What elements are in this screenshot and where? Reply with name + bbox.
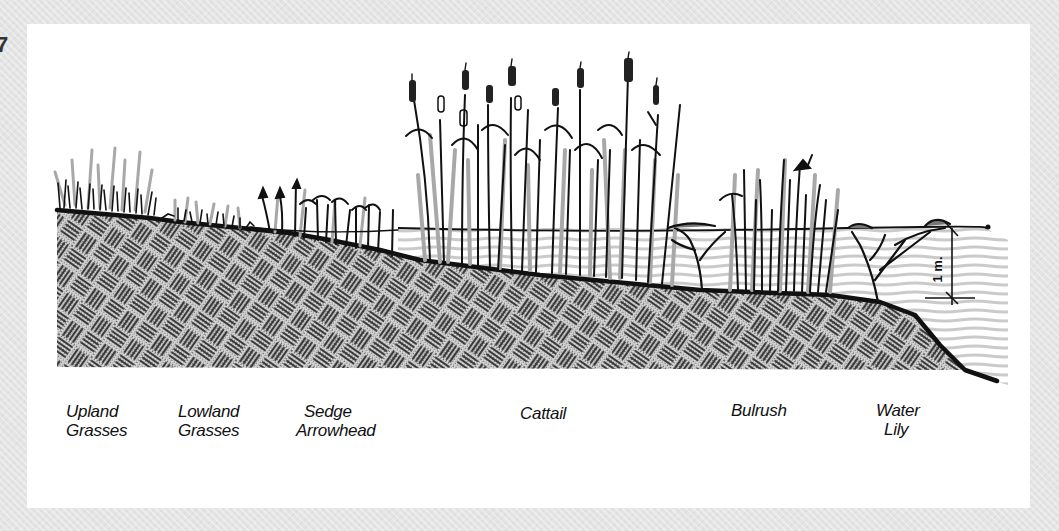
depth-marker-label: 1 m.	[930, 256, 945, 282]
wetland-cross-section-illustration	[0, 0, 1059, 531]
zone-label-bulrush: Bulrush	[731, 401, 787, 420]
zone-label-cattail: Cattail	[520, 404, 566, 423]
zone-label-lowland-grasses: Lowland Grasses	[178, 402, 239, 440]
zone-label-water-lily: Water Lily	[876, 401, 920, 439]
cattail-heads	[409, 58, 659, 126]
upland-grasses	[55, 148, 156, 215]
zone-label-upland-grasses: Upland Grasses	[66, 402, 127, 440]
bulrush-plants	[720, 155, 838, 292]
zone-label-sedge-arrowhead: Sedge Arrowhead	[296, 402, 376, 440]
